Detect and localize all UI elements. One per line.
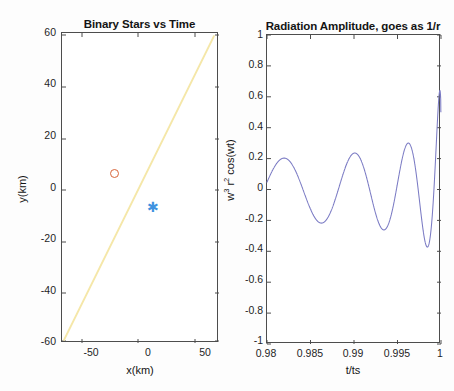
right-ytick-0p8: 0.8 (228, 58, 263, 70)
figure-canvas: Binary Stars vs Time 60 40 20 0 -20 -40 … (0, 0, 454, 391)
right-xtick-0p995: 0.995 (377, 347, 417, 359)
right-ytick-neg0p6: -0.6 (228, 273, 263, 285)
chirp-waveform (267, 90, 441, 247)
left-ytick-60: 60 (20, 26, 56, 38)
left-ytick-neg60: -60 (20, 335, 56, 347)
right-xtick-0p99: 0.99 (336, 347, 370, 359)
ylabel-w: w (224, 193, 236, 201)
left-ytick-20: 20 (20, 129, 56, 141)
left-xtick-0: 0 (133, 346, 163, 358)
right-ytick-neg1: -1 (228, 334, 263, 346)
ylabel-w-exponent: 3 (222, 189, 231, 193)
right-yaxis-label: w3 r2 cos(wt) (222, 105, 236, 235)
right-xtick-1: 1 (427, 347, 453, 359)
ylabel-cos: cos(wt) (224, 139, 236, 178)
left-xtick-50: 50 (190, 346, 220, 358)
right-plot-svg (267, 35, 441, 344)
separation-line (64, 36, 214, 340)
right-ytick-neg0p8: -0.8 (228, 304, 263, 316)
ylabel-r: r (224, 182, 236, 189)
left-plot-svg (62, 33, 219, 343)
right-plot-title: Radiation Amplitude, goes as 1/r (252, 20, 454, 32)
right-ytick-0p6: 0.6 (228, 89, 263, 101)
left-ytick-40: 40 (20, 77, 56, 89)
left-plot-frame (61, 32, 218, 342)
star-2-asterisk-marker: ✱ (147, 202, 158, 213)
right-xaxis-label: t/ts (323, 364, 383, 376)
right-plot-frame (266, 34, 440, 343)
right-tick-marks (267, 35, 441, 344)
left-ytick-neg40: -40 (20, 284, 56, 296)
right-ytick-1: 1 (228, 28, 263, 40)
left-plot-title: Binary Stars vs Time (61, 18, 218, 30)
right-ytick-neg0p4: -0.4 (228, 242, 263, 254)
right-xtick-0p98: 0.98 (249, 347, 283, 359)
left-xaxis-label: x(km) (104, 364, 176, 376)
left-xtick-neg50: -50 (76, 346, 106, 358)
left-yaxis-label: y(km) (16, 153, 28, 225)
star-1-circle-marker (110, 169, 119, 178)
left-ytick-neg20: -20 (20, 232, 56, 244)
ylabel-r-exponent: 2 (222, 178, 231, 182)
right-xtick-0p985: 0.985 (290, 347, 330, 359)
